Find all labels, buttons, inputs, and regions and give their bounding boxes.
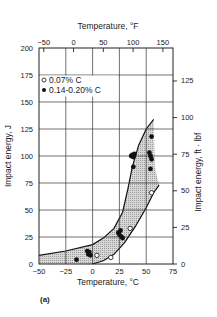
filled-circle-point: [148, 167, 153, 172]
tick-label-bottom: −50: [33, 267, 46, 276]
open-circle-point: [109, 255, 113, 259]
tick-label-left: 200: [20, 44, 33, 53]
legend: 0.07% C0.14-0.20% C: [40, 75, 118, 97]
tick-label-left: 100: [20, 152, 33, 161]
right-axis-title: Impact energy, ft · lbf: [193, 132, 203, 212]
filled-circle-point: [149, 134, 154, 139]
top-axis-title: Temperature, °F: [77, 21, 138, 31]
tick-label-bottom: 25: [115, 267, 123, 276]
open-circle-point: [128, 226, 132, 230]
legend-label: 0.14-0.20% C: [49, 85, 101, 95]
filled-circle-point: [88, 253, 93, 258]
tick-label-left: 125: [20, 125, 33, 134]
legend-label: 0.07% C: [49, 75, 82, 85]
open-circle-point: [95, 253, 99, 257]
tick-label-right: 75: [181, 150, 189, 159]
tick-label-left: 0: [29, 260, 33, 269]
filled-circle-point: [118, 228, 123, 233]
tick-label-left: 50: [25, 206, 33, 215]
tick-label-bottom: −25: [59, 267, 72, 276]
legend-open-circle-icon: [42, 78, 46, 82]
tick-label-top: 150: [157, 38, 170, 47]
tick-label-top: 50: [99, 38, 107, 47]
tick-label-top: −50: [37, 38, 50, 47]
tick-label-left: 175: [20, 71, 33, 80]
filled-circle-point: [120, 236, 125, 241]
bottom-axis-title: Temperature, °C: [77, 277, 139, 287]
tick-label-left: 25: [25, 233, 33, 242]
panel-label: (a): [40, 295, 50, 304]
filled-circle-point: [149, 157, 154, 162]
tick-label-top: 0: [71, 38, 75, 47]
tick-label-left: 150: [20, 98, 33, 107]
impact-energy-chart: 0.07% C0.14-0.20% C −5005010015002550751…: [0, 0, 217, 317]
open-circle-point: [149, 191, 153, 195]
tick-label-top: 100: [127, 38, 140, 47]
tick-label-left: 75: [25, 179, 33, 188]
tick-label-right: 100: [181, 113, 194, 122]
scatter-band: [39, 119, 159, 264]
filled-circle-point: [74, 257, 79, 262]
tick-label-bottom: 50: [142, 267, 150, 276]
tick-label-bottom: 0: [91, 267, 95, 276]
tick-label-right: 25: [181, 223, 189, 232]
tick-label-right: 50: [181, 186, 189, 195]
tick-label-right: 125: [181, 76, 194, 85]
filled-circle-point: [131, 164, 136, 169]
legend-filled-circle-icon: [42, 88, 46, 92]
left-axis-title: Impact energy, J: [3, 125, 13, 187]
tick-label-right: 0: [181, 260, 185, 269]
filled-circle-point: [132, 151, 137, 156]
tick-label-bottom: 75: [169, 267, 177, 276]
